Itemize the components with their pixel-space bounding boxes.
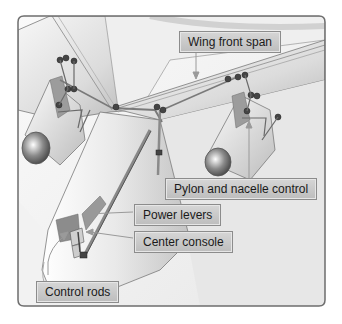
scene — [18, 16, 325, 306]
label-center-console: Center console — [134, 231, 233, 253]
label-control-rods: Control rods — [36, 281, 119, 303]
label-wing-front-span: Wing front span — [179, 31, 281, 53]
label-pylon-nacelle-control: Pylon and nacelle control — [165, 178, 317, 200]
label-power-levers: Power levers — [134, 204, 221, 226]
aircraft-control-diagram — [0, 0, 342, 324]
diagram-figure: Wing front span Pylon and nacelle contro… — [0, 0, 342, 324]
